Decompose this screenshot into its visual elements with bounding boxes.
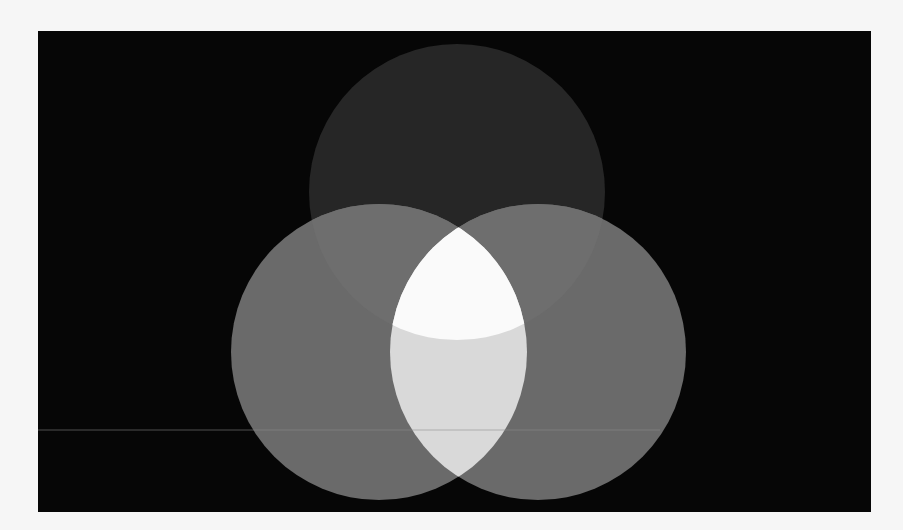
venn-diagram xyxy=(38,31,871,512)
page-background xyxy=(0,0,903,530)
venn-diagram-frame xyxy=(38,31,871,512)
